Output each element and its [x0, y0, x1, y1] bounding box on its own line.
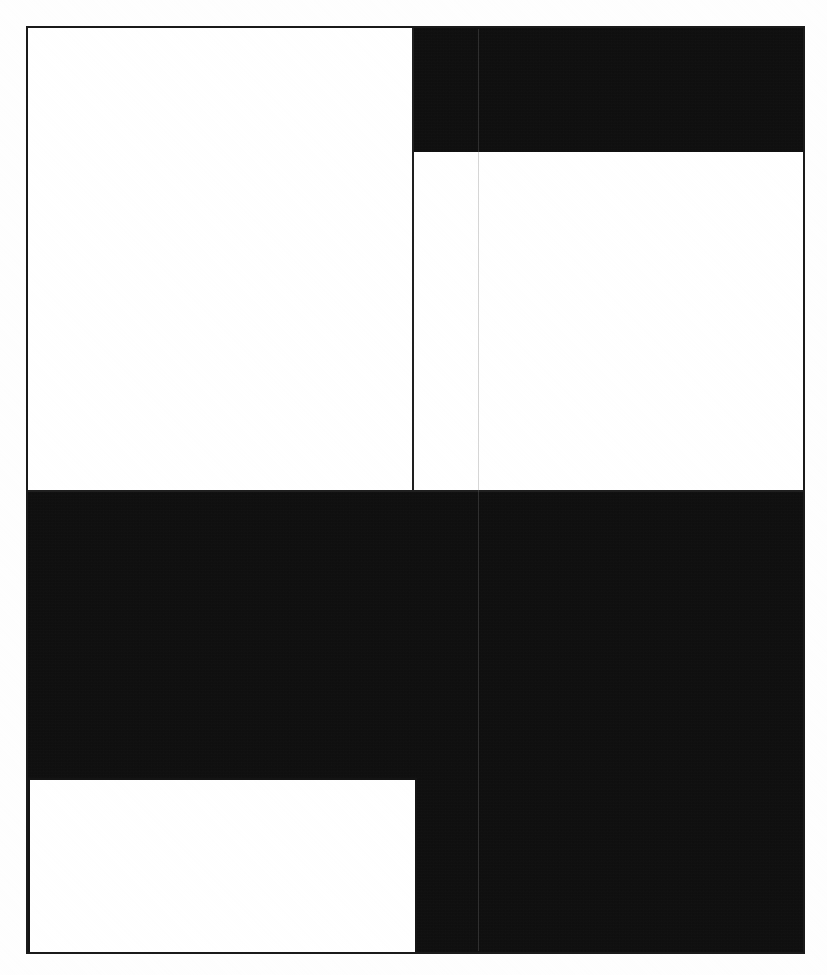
scan-canvas	[0, 0, 827, 975]
scanned-page	[0, 0, 827, 975]
page-border-frame	[26, 26, 805, 954]
page-text-content	[0, 0, 1, 1]
